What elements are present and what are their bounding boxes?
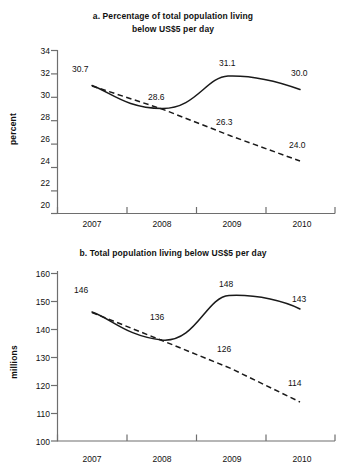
chart-b-plot-area [0, 240, 346, 471]
chart-panel-b: b. Total population living below US$5 pe… [0, 240, 346, 471]
chart-b-series-counterfactual [92, 313, 300, 403]
chart-b-y-ticks [51, 274, 58, 442]
chart-a-plot-area [0, 0, 346, 240]
chart-a-y-ticks [51, 51, 58, 214]
chart-b-series-actual [92, 295, 300, 340]
chart-a-series-counterfactual [92, 86, 300, 161]
chart-a-x-ticks [58, 207, 336, 214]
chart-panel-a: a. Percentage of total population living… [0, 0, 346, 240]
chart-b-x-ticks [58, 435, 336, 442]
chart-a-series-actual [92, 76, 300, 109]
